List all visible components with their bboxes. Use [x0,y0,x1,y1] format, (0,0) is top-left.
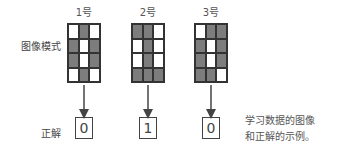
filled-pixel [132,24,143,39]
answer-box: 0 [75,117,93,139]
caption-line-2: 和正解的示例。 [245,129,315,145]
filled-pixel [143,68,154,83]
empty-pixel [206,53,217,68]
empty-pixel [79,53,90,68]
filled-pixel [195,53,206,68]
filled-pixel [153,68,164,83]
filled-pixel [206,24,217,39]
empty-pixel [79,39,90,54]
caption: 学习数据的图像 和正解的示例。 [245,113,315,145]
empty-pixel [216,68,227,83]
filled-pixel [143,53,154,68]
filled-pixel [195,39,206,54]
image-pattern-grid [67,23,101,83]
filled-pixel [206,68,217,83]
empty-pixel [68,24,79,39]
empty-pixel [89,24,100,39]
answer-row-label: 正解 [41,125,61,140]
empty-pixel [153,53,164,68]
down-arrow-icon [79,85,89,119]
filled-pixel [68,39,79,54]
sample-label: 1号 [67,4,101,19]
filled-pixel [79,24,90,39]
filled-pixel [216,39,227,54]
down-arrow-icon [143,85,153,119]
empty-pixel [195,24,206,39]
answer-box: 0 [202,117,220,139]
filled-pixel [79,68,90,83]
image-pattern-grid [131,23,165,83]
filled-pixel [143,24,154,39]
filled-pixel [216,53,227,68]
filled-pixel [89,39,100,54]
caption-line-1: 学习数据的图像 [245,113,315,129]
filled-pixel [68,53,79,68]
empty-pixel [153,39,164,54]
empty-pixel [153,24,164,39]
pattern-row-label: 图像模式 [21,38,61,53]
filled-pixel [132,68,143,83]
sample-label: 2号 [131,4,165,19]
image-pattern-grid [194,23,228,83]
empty-pixel [132,53,143,68]
answer-box: 1 [139,117,157,139]
down-arrow-icon [206,85,216,119]
empty-pixel [132,39,143,54]
filled-pixel [195,68,206,83]
sample-label: 3号 [194,4,228,19]
empty-pixel [89,68,100,83]
filled-pixel [89,53,100,68]
filled-pixel [143,39,154,54]
filled-pixel [216,24,227,39]
empty-pixel [206,39,217,54]
empty-pixel [68,68,79,83]
